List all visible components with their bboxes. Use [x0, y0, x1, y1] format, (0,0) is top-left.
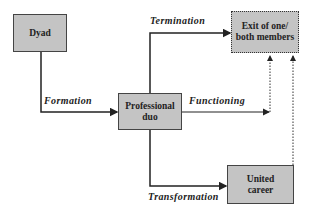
transformation-arrow [150, 130, 226, 186]
edge-label-termination: Termination [150, 15, 205, 26]
edge-label-functioning: Functioning [189, 95, 245, 106]
termination-arrow [150, 33, 230, 93]
node-united-line1: United [247, 174, 274, 185]
node-dyad: Dyad [13, 14, 67, 52]
node-united-career: United career [227, 165, 294, 204]
node-professional-duo: Professional duo [118, 93, 182, 130]
edge-label-formation: Formation [44, 95, 92, 106]
node-united-line2: career [248, 185, 274, 196]
node-exit: Exit of one/ both members [231, 11, 299, 53]
node-exit-line1: Exit of one/ [242, 21, 288, 32]
node-duo-line1: Professional [125, 101, 174, 112]
node-duo-line2: duo [142, 112, 157, 123]
diagram: Dyad Professional duo Exit of one/ both … [0, 0, 311, 216]
edge-label-transformation: Transformation [148, 191, 219, 202]
node-dyad-label: Dyad [29, 28, 51, 39]
node-exit-line2: both members [236, 32, 294, 43]
